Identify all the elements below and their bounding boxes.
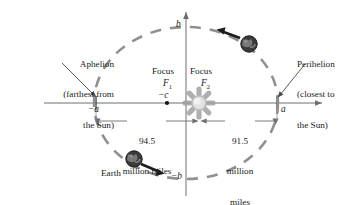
focus-1-subscript: 1 [169, 83, 172, 90]
focus-1-coordinate: −c [158, 90, 169, 101]
focus-1-point [165, 101, 169, 105]
perihelion-line-1: Perihelion [297, 59, 352, 69]
aphelion-line-2: (farthest from [6, 89, 114, 99]
focus-2-subscript: 2 [207, 83, 210, 90]
dimension-right-value: 91.5 [212, 136, 268, 146]
aphelion-callout: Aphelion (farthest from the Sun) [6, 38, 114, 151]
focus-2-name: F2 [201, 78, 210, 90]
perihelion-callout: Perihelion (closest to the Sun) [297, 38, 352, 151]
sun-icon [185, 89, 213, 117]
dimension-right-unit-2: miles [212, 197, 268, 205]
vertex-label-right: a [281, 104, 286, 115]
dimension-left-value: 94.5 [107, 136, 187, 146]
focus-1-label: Focus [152, 66, 174, 76]
focus-2-label: Focus [190, 66, 212, 76]
focus-1-name: F1 [163, 78, 172, 90]
aphelion-line-1: Aphelion [6, 59, 114, 69]
orbit-diagram: Aphelion (farthest from the Sun) Perihel… [0, 0, 352, 205]
perihelion-line-3: the Sun) [297, 120, 352, 130]
earth-label: Earth [101, 168, 121, 178]
earth-globe-upper [241, 36, 257, 52]
perihelion-line-2: (closest to [297, 89, 352, 99]
vertex-label-left: −a [88, 104, 99, 115]
dimension-label-right: 91.5 million miles [212, 115, 268, 205]
dimension-right-unit-1: million [212, 166, 268, 176]
covertex-label-top: b [176, 19, 181, 30]
aphelion-line-3: the Sun) [6, 120, 114, 130]
dimension-label-left: 94.5 million miles [107, 115, 187, 197]
